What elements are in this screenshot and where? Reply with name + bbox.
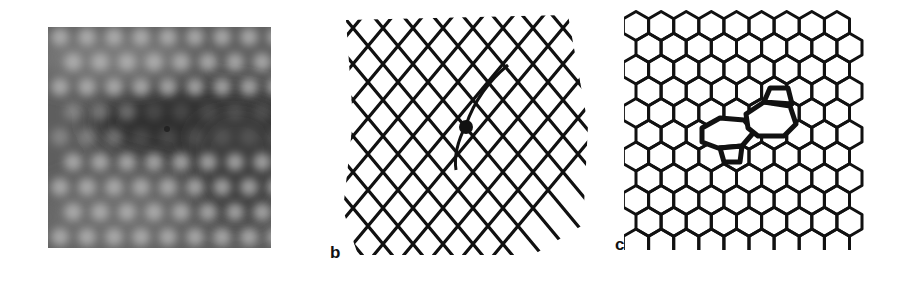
hexagonal-lattice-panel-c [624,10,864,250]
panel-label-c: c [615,236,624,253]
micrograph-panel-a [48,27,271,248]
rhombic-lattice-drawing [338,10,600,262]
hexagonal-lattice-drawing [624,10,864,250]
rhombic-lattice-panel-b [338,10,600,262]
panel-label-b: b [330,244,340,261]
micrograph-image [48,27,271,248]
defect-marker [164,126,170,132]
